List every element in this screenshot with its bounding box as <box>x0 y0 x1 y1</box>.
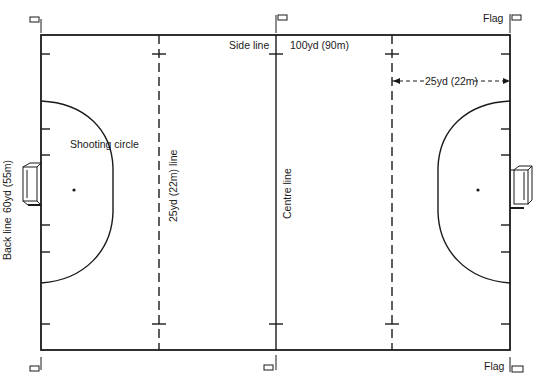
shooting-circle-label: Shooting circle <box>70 138 139 150</box>
side-line-label: Side line <box>229 39 269 51</box>
goal-icon <box>510 166 532 208</box>
width-label: 60yd (55m) <box>1 160 13 213</box>
pitch-diagram <box>0 0 538 381</box>
flag-label-bottom: Flag <box>484 360 504 372</box>
centre-line-label: Centre line <box>281 168 293 219</box>
penalty-spot-icon <box>72 188 75 191</box>
penalty-spot-icon <box>476 188 479 191</box>
shooting-circle-left <box>41 101 113 283</box>
goal-icon <box>23 163 41 205</box>
length-label: 100yd (90m) <box>290 39 349 51</box>
shooting-circle-right <box>438 101 510 283</box>
quarter-line-label: 25yd (22m) line <box>167 150 179 222</box>
quarter-distance-label: 25yd (22m) <box>425 75 478 87</box>
flag-label-top: Flag <box>483 12 503 24</box>
back-line-label: Back line <box>1 217 13 260</box>
